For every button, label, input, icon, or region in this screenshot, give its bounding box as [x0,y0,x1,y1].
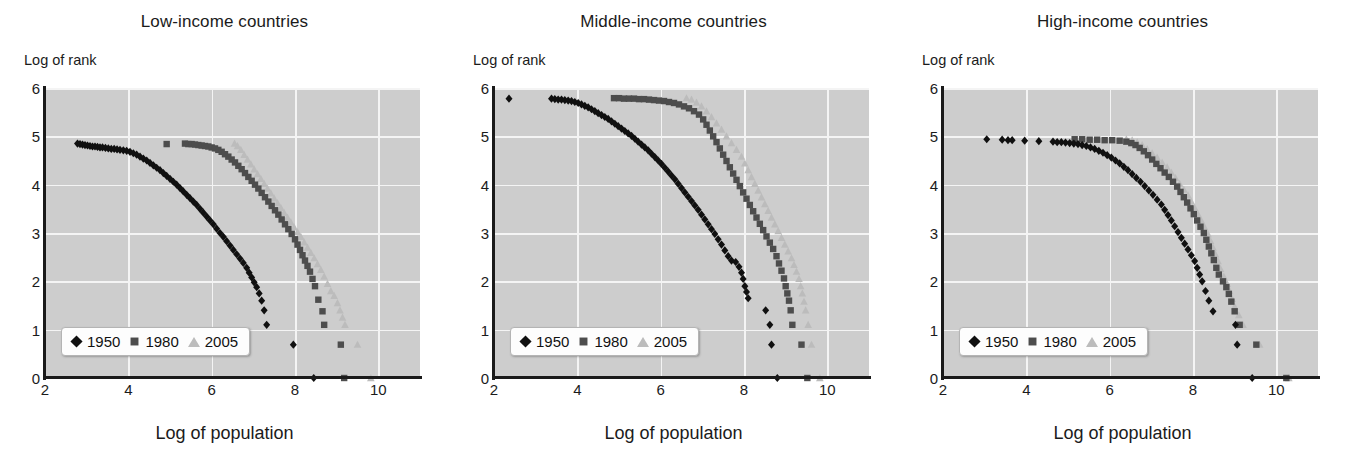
legend-entry-1950[interactable]: 1950 [520,333,569,350]
y-tick-label: 3 [467,226,489,241]
panel-title: Low-income countries [0,12,449,32]
y-tick-label: 1 [18,322,40,337]
x-tick-label: 4 [573,382,581,397]
y-tick-label: 2 [916,274,938,289]
x-tick-label: 10 [370,382,387,397]
square-marker-icon [580,338,588,346]
y-tick-label: 1 [467,322,489,337]
y-axis-label: Log of rank [922,52,995,68]
x-tick-label: 8 [291,382,299,397]
y-tick-label: 1 [916,322,938,337]
triangle-marker-icon [637,337,649,347]
y-axis-line [492,86,495,380]
plot-area: 195019802005 [943,88,1318,378]
x-axis-label: Log of population [898,423,1347,444]
square-marker-icon [131,338,139,346]
x-axis-line [43,376,422,379]
y-axis-ticks: 0123456 [912,88,938,378]
y-tick-label: 0 [467,371,489,386]
x-axis-label: Log of population [0,423,449,444]
x-tick-label: 8 [1189,382,1197,397]
legend-entry-2005[interactable]: 2005 [188,333,238,350]
y-tick-label: 0 [916,371,938,386]
y-tick-label: 4 [916,177,938,192]
x-tick-label: 4 [1022,382,1030,397]
legend-label: 1980 [145,333,178,350]
legend-label: 2005 [1103,333,1136,350]
y-tick-label: 2 [18,274,40,289]
legend-label: 1950 [536,333,569,350]
x-tick-label: 2 [41,382,49,397]
x-tick-label: 4 [124,382,132,397]
x-axis-ticks: 246810 [45,382,420,404]
chart-panel-high-income: High-income countries Log of rank 195019… [898,0,1347,460]
x-axis-ticks: 246810 [494,382,869,404]
legend-label: 1980 [594,333,627,350]
diamond-marker-icon [968,336,980,348]
x-axis-line [492,376,871,379]
diamond-marker-icon [519,336,531,348]
y-axis-line [43,86,46,380]
legend-entry-2005[interactable]: 2005 [637,333,687,350]
x-tick-label: 6 [1105,382,1113,397]
y-tick-label: 3 [18,226,40,241]
legend-label: 1950 [985,333,1018,350]
y-tick-label: 6 [467,81,489,96]
triangle-marker-icon [1086,337,1098,347]
y-tick-label: 4 [467,177,489,192]
panel-title: High-income countries [898,12,1347,32]
x-tick-label: 2 [939,382,947,397]
legend-entry-1950[interactable]: 1950 [969,333,1018,350]
x-tick-label: 10 [819,382,836,397]
y-tick-label: 5 [916,129,938,144]
y-axis-ticks: 0123456 [463,88,489,378]
x-axis-label: Log of population [449,423,898,444]
chart-panel-low-income: Low-income countries Log of rank 1950198… [0,0,449,460]
y-axis-label: Log of rank [473,52,546,68]
y-tick-label: 5 [467,129,489,144]
plot-area: 195019802005 [494,88,869,378]
chart-panel-middle-income: Middle-income countries Log of rank 1950… [449,0,898,460]
x-axis-line [941,376,1320,379]
x-axis-ticks: 246810 [943,382,1318,404]
legend-label: 1980 [1043,333,1076,350]
diamond-marker-icon [70,336,82,348]
chart-legend[interactable]: 195019802005 [510,327,699,356]
x-tick-label: 6 [207,382,215,397]
x-tick-label: 2 [490,382,498,397]
plot-area: 195019802005 [45,88,420,378]
y-tick-label: 6 [916,81,938,96]
legend-label: 1950 [87,333,120,350]
y-axis-line [941,86,944,380]
y-tick-label: 4 [18,177,40,192]
y-axis-label: Log of rank [24,52,97,68]
square-marker-icon [1029,338,1037,346]
legend-entry-1980[interactable]: 1980 [578,333,627,350]
y-tick-label: 3 [916,226,938,241]
legend-entry-1980[interactable]: 1980 [1027,333,1076,350]
figure-root: Low-income countries Log of rank 1950198… [0,0,1347,460]
y-tick-label: 6 [18,81,40,96]
y-tick-label: 0 [18,371,40,386]
legend-label: 2005 [654,333,687,350]
legend-entry-1950[interactable]: 1950 [71,333,120,350]
series-2005 [683,94,824,381]
y-tick-label: 5 [18,129,40,144]
y-tick-label: 2 [467,274,489,289]
panel-title: Middle-income countries [449,12,898,32]
legend-entry-1980[interactable]: 1980 [129,333,178,350]
legend-entry-2005[interactable]: 2005 [1086,333,1136,350]
legend-label: 2005 [205,333,238,350]
x-tick-label: 8 [740,382,748,397]
x-tick-label: 10 [1268,382,1285,397]
chart-legend[interactable]: 195019802005 [61,327,250,356]
chart-legend[interactable]: 195019802005 [959,327,1148,356]
x-tick-label: 6 [656,382,664,397]
y-axis-ticks: 0123456 [14,88,40,378]
series-2005 [1123,135,1293,381]
triangle-marker-icon [188,337,200,347]
